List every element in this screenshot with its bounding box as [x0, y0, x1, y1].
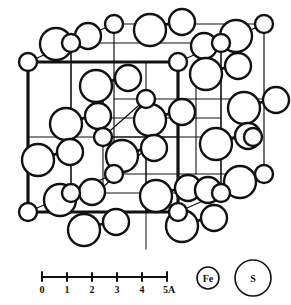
- legend-item-fe: Fe: [197, 267, 219, 289]
- iron-atom: [19, 203, 37, 221]
- scale-tick-label-2: 2: [90, 284, 95, 295]
- sulfur-atom: [68, 214, 100, 246]
- sulfur-atom: [57, 139, 83, 165]
- angstrom-scale-bar: 0 1 2 3 4 5A: [40, 272, 176, 295]
- iron-atom: [255, 15, 273, 33]
- sulfur-atom: [140, 180, 172, 212]
- sulfur-atom: [190, 58, 222, 90]
- sulfur-atom: [115, 65, 141, 91]
- scale-tick-label-3: 3: [115, 284, 120, 295]
- sulfur-atom: [80, 70, 112, 102]
- scale-end-label: 5A: [163, 284, 176, 295]
- iron-atom: [169, 53, 187, 71]
- iron-atom: [94, 128, 112, 146]
- iron-atom: [137, 90, 155, 108]
- scale-tick-label-0: 0: [40, 284, 45, 295]
- legend-iron-label: Fe: [203, 273, 214, 284]
- iron-atom: [244, 128, 262, 146]
- sulfur-atom: [50, 108, 82, 140]
- iron-atom: [105, 15, 123, 33]
- sulfur-atom: [200, 128, 232, 160]
- sulfur-atom: [141, 135, 167, 161]
- iron-atom: [169, 203, 187, 221]
- scale-tick-label-1: 1: [65, 284, 70, 295]
- pyrite-structure-figure: 0 1 2 3 4 5A Fe S: [0, 0, 291, 305]
- sulfur-atom: [134, 104, 166, 136]
- sulfur-atom: [228, 92, 260, 124]
- legend-item-s: S: [235, 260, 271, 296]
- sulfur-atom: [134, 14, 166, 46]
- legend: Fe S: [197, 260, 271, 296]
- sulfur-atom: [103, 209, 129, 235]
- legend-sulfur-label: S: [250, 273, 256, 284]
- sulfur-atom: [263, 87, 289, 113]
- sulfur-atom: [201, 205, 227, 231]
- sulfur-atom: [22, 144, 54, 176]
- iron-atom: [105, 165, 123, 183]
- iron-atom: [62, 34, 80, 52]
- iron-atom: [212, 34, 230, 52]
- iron-atom: [19, 53, 37, 71]
- iron-atom: [212, 184, 230, 202]
- sulfur-atom: [169, 99, 195, 125]
- iron-atom: [255, 165, 273, 183]
- scale-tick-label-4: 4: [140, 284, 145, 295]
- sulfur-atom: [169, 9, 195, 35]
- sulfur-atom: [85, 103, 111, 129]
- iron-atom: [62, 184, 80, 202]
- sulfur-atom: [79, 179, 105, 205]
- sulfur-atom: [225, 53, 251, 79]
